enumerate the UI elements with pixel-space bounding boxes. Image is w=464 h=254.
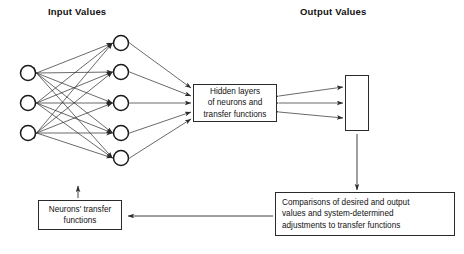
hidden-layers-line-1: Hidden layers [210,86,260,98]
hidden-layers-line-3: transfer functions [204,109,267,121]
neurons-line-1: Neurons' transfer [49,204,112,216]
diagram-canvas: Input Values Output Values [0,0,464,254]
comparisons-line-2: values and system-determined [282,208,394,220]
hidden-layers-line-2: of neurons and [208,97,263,109]
neurons-line-2: functions [64,215,97,227]
comparisons-line-1: Comparisons of desired and output [282,197,409,209]
neurons-transfer-functions-box[interactable]: Neurons' transfer functions [38,200,122,230]
comparisons-box[interactable]: Comparisons of desired and output values… [275,192,455,236]
output-values-group-box [345,75,369,131]
hidden-layers-box[interactable]: Hidden layers of neurons and transfer fu… [193,84,277,122]
comparisons-line-3: adjustments to transfer functions [282,220,400,232]
